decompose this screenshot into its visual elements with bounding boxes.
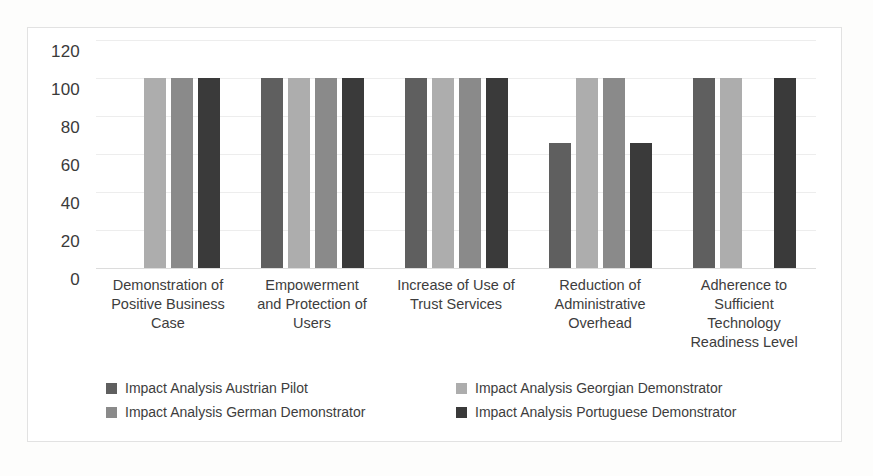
bar-slot [198, 40, 220, 268]
legend-item[interactable]: Impact Analysis German Demonstrator [106, 404, 456, 420]
bar-slot [603, 40, 625, 268]
bar[interactable] [144, 78, 166, 268]
bar-group [240, 40, 384, 268]
bar[interactable] [603, 78, 625, 268]
bar-group [528, 40, 672, 268]
x-axis-category-label: Empowerment and Protection of Users [240, 276, 384, 372]
bar-slot [342, 40, 364, 268]
bar[interactable] [720, 78, 742, 268]
x-axis-category-label: Demonstration of Positive Business Case [96, 276, 240, 372]
bar-groups-container [96, 40, 816, 268]
legend-item[interactable]: Impact Analysis Austrian Pilot [106, 380, 456, 396]
bar-group [384, 40, 528, 268]
bar-group [96, 40, 240, 268]
bar-slot [720, 40, 742, 268]
y-tick-label: 120 [51, 42, 80, 62]
axis-baseline [96, 268, 816, 269]
bar[interactable] [342, 78, 364, 268]
legend-label: Impact Analysis Austrian Pilot [125, 380, 308, 396]
y-axis: 020406080100120 [28, 40, 90, 268]
scanned-page-background: 020406080100120 Demonstration of Positiv… [0, 0, 873, 476]
bar[interactable] [486, 78, 508, 268]
y-tick-label: 100 [51, 80, 80, 100]
bar-slot [315, 40, 337, 268]
bar[interactable] [693, 78, 715, 268]
y-tick-label: 60 [61, 156, 80, 176]
x-axis-category-label: Reduction of Administrative Overhead [528, 276, 672, 372]
bar-slot [171, 40, 193, 268]
bar[interactable] [549, 143, 571, 268]
y-tick-label: 80 [61, 118, 80, 138]
x-axis-category-labels: Demonstration of Positive Business CaseE… [96, 276, 816, 372]
bar[interactable] [432, 78, 454, 268]
y-tick-label: 40 [61, 194, 80, 214]
bar-slot [405, 40, 427, 268]
bar[interactable] [774, 78, 796, 268]
bar[interactable] [630, 143, 652, 268]
chart-legend: Impact Analysis Austrian PilotImpact Ana… [106, 380, 806, 420]
bar[interactable] [459, 78, 481, 268]
bar-slot [549, 40, 571, 268]
legend-item[interactable]: Impact Analysis Georgian Demonstrator [456, 380, 806, 396]
bar[interactable] [405, 78, 427, 268]
x-axis-category-label: Adherence to Sufficient Technology Readi… [672, 276, 816, 372]
bar[interactable] [198, 78, 220, 268]
y-tick-label: 20 [61, 232, 80, 252]
bar-slot [288, 40, 310, 268]
bar[interactable] [171, 78, 193, 268]
legend-swatch-icon [456, 383, 467, 394]
bar-slot [432, 40, 454, 268]
bar[interactable] [261, 78, 283, 268]
bar-group [672, 40, 816, 268]
legend-swatch-icon [456, 407, 467, 418]
bar-slot [261, 40, 283, 268]
bar-slot [774, 40, 796, 268]
x-axis-category-label: Increase of Use of Trust Services [384, 276, 528, 372]
bar-slot [630, 40, 652, 268]
bar[interactable] [315, 78, 337, 268]
y-tick-label: 0 [70, 270, 80, 290]
bar-slot [747, 40, 769, 268]
bar[interactable] [576, 78, 598, 268]
legend-swatch-icon [106, 383, 117, 394]
bar-slot [576, 40, 598, 268]
bar[interactable] [288, 78, 310, 268]
legend-label: Impact Analysis Georgian Demonstrator [475, 380, 722, 396]
bar-slot [486, 40, 508, 268]
bar-slot [459, 40, 481, 268]
legend-swatch-icon [106, 407, 117, 418]
plot-area [96, 40, 816, 268]
bar-slot [117, 40, 139, 268]
legend-item[interactable]: Impact Analysis Portuguese Demonstrator [456, 404, 806, 420]
bar-slot [693, 40, 715, 268]
legend-label: Impact Analysis German Demonstrator [125, 404, 365, 420]
chart-frame: 020406080100120 Demonstration of Positiv… [27, 27, 842, 442]
bar-slot [144, 40, 166, 268]
legend-label: Impact Analysis Portuguese Demonstrator [475, 404, 736, 420]
